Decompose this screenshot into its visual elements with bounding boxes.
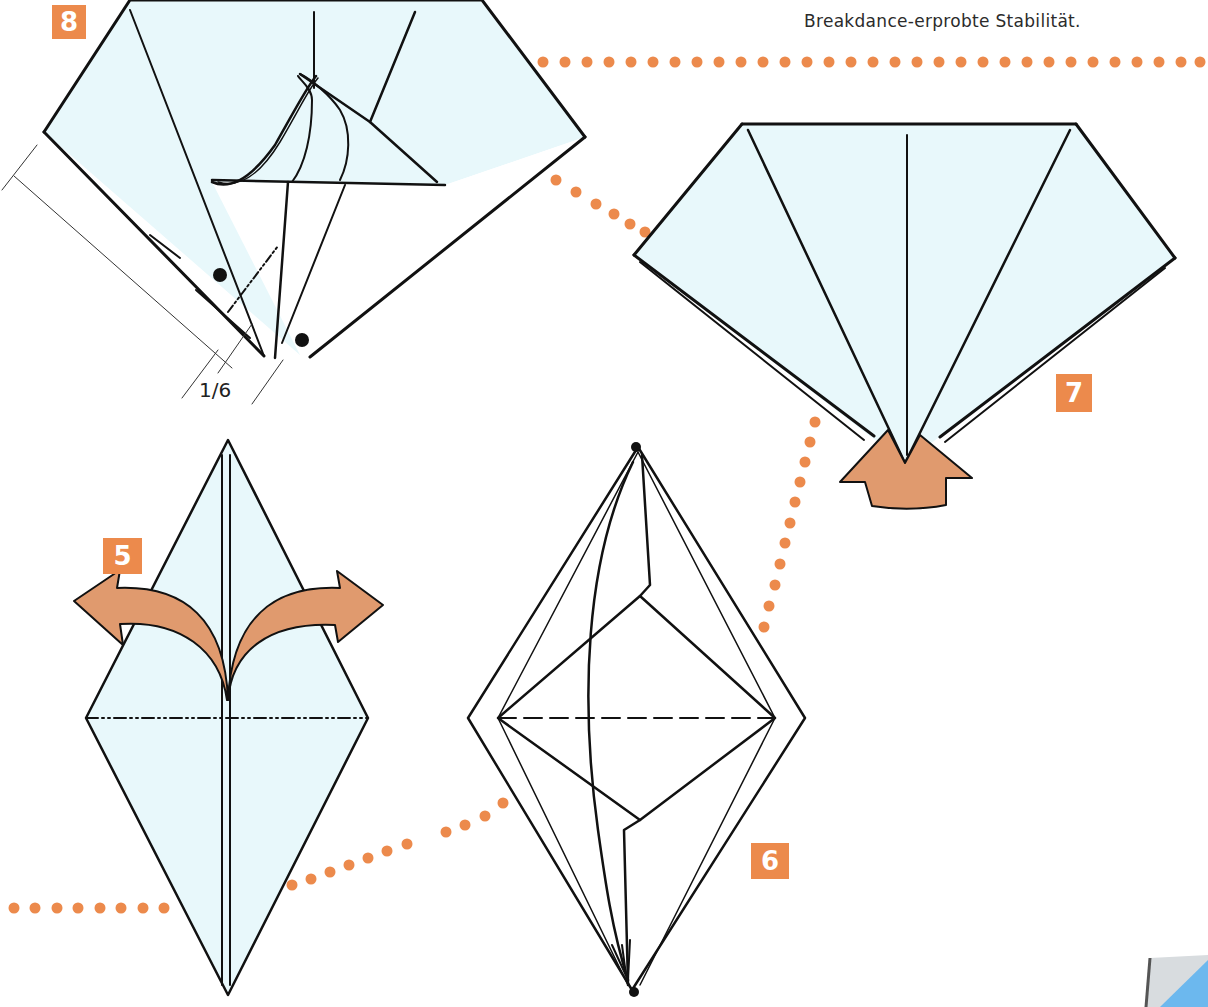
dimension-label: 1/6	[199, 378, 231, 402]
connector-5-left	[9, 903, 170, 914]
connector-8-top	[538, 57, 1206, 68]
page-curl-icon	[1145, 955, 1208, 1007]
diagram-canvas	[0, 0, 1208, 1007]
step-6-diagram	[468, 442, 805, 997]
step-badge-8: 8	[52, 5, 86, 39]
connector-8-7	[551, 175, 651, 238]
step-badge-7: 7	[1056, 374, 1092, 412]
step-7-diagram	[634, 124, 1175, 509]
step-badge-5: 5	[103, 538, 142, 574]
step-badge-6: 6	[751, 843, 789, 879]
step-8-diagram	[2, 0, 585, 404]
connector-7-6	[759, 417, 821, 633]
instruction-page: Breakdance-erprobte Stabilität.	[0, 0, 1208, 1007]
